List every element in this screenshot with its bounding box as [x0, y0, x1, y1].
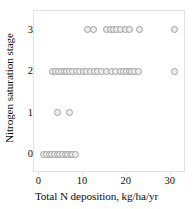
x-axis-title: Total N deposition, kg/ha/yr — [0, 190, 193, 202]
x-tick-label: 20 — [115, 175, 137, 186]
data-point — [135, 68, 142, 75]
x-tick-label: 0 — [27, 175, 49, 186]
y-tick-label: 0 — [19, 148, 33, 159]
y-tick-label: 1 — [19, 106, 33, 117]
data-point — [66, 109, 73, 116]
y-axis-ticks: 0123 — [14, 10, 33, 172]
data-point — [54, 109, 61, 116]
x-tick-label: 30 — [159, 175, 181, 186]
plot-area — [33, 10, 185, 172]
data-point — [171, 68, 178, 75]
scatter-chart-figure: Nitrogen saturation stage 0123 0102030 T… — [0, 0, 193, 209]
data-point — [171, 26, 178, 33]
x-tick-label: 10 — [71, 175, 93, 186]
data-point — [72, 151, 79, 158]
data-point — [90, 26, 97, 33]
data-point — [126, 26, 133, 33]
y-tick-label: 3 — [19, 23, 33, 34]
x-axis-ticks: 0102030 — [33, 172, 185, 188]
data-point-layer — [34, 11, 184, 171]
y-tick-label: 2 — [19, 65, 33, 76]
data-point — [136, 26, 143, 33]
